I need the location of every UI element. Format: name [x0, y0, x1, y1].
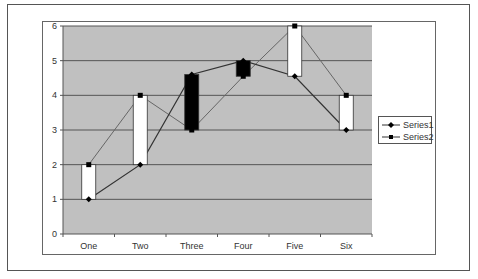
y-tick-label: 1 — [52, 194, 57, 204]
series2-marker — [241, 74, 246, 79]
x-tick-label: Six — [340, 241, 353, 251]
legend-label: Series2 — [403, 132, 434, 142]
series2-marker — [344, 93, 349, 98]
x-tick-label: Five — [286, 241, 303, 251]
x-tick-label: Three — [180, 241, 204, 251]
down-bar — [185, 75, 199, 130]
x-tick-label: Four — [234, 241, 253, 251]
series2-marker — [292, 24, 297, 29]
up-bar — [339, 95, 353, 130]
x-tick-label: Two — [132, 241, 149, 251]
series2-marker — [86, 162, 91, 167]
y-tick-label: 4 — [52, 90, 57, 100]
up-bar — [288, 26, 302, 76]
up-bar — [82, 165, 96, 200]
chart-legend: Series1 Series2 — [378, 116, 432, 144]
y-tick-label: 2 — [52, 160, 57, 170]
series2-marker — [138, 93, 143, 98]
diamond-marker-icon — [382, 121, 400, 129]
legend-label: Series1 — [403, 120, 434, 130]
y-tick-label: 0 — [52, 229, 57, 239]
series2-marker — [189, 128, 194, 133]
y-tick-label: 6 — [52, 21, 57, 31]
x-tick-label: One — [80, 241, 97, 251]
legend-item-series1: Series1 — [382, 119, 434, 131]
up-bar — [133, 95, 147, 164]
square-marker-icon — [382, 133, 400, 141]
legend-item-series2: Series2 — [382, 131, 434, 143]
y-tick-label: 5 — [52, 56, 57, 66]
y-tick-label: 3 — [52, 125, 57, 135]
